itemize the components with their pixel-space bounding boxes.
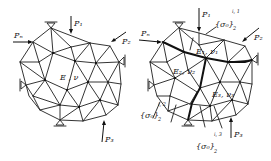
svg-text:{σ₀}: {σ₀}	[215, 20, 234, 29]
pin-support-icon	[119, 55, 125, 67]
pin-support-icon	[45, 22, 57, 28]
load-arrow-icon	[139, 40, 162, 44]
load-arrow-icon	[13, 40, 33, 44]
left-mesh: P₁ P₂ Pₙ P₃ E , ν	[13, 16, 131, 144]
svg-text:2: 2	[213, 148, 217, 154]
stress-label-1: {σ₀} 2 i, 1	[206, 8, 240, 34]
stress-label-2: {σ₀} 2 i, 2	[140, 101, 166, 122]
subdomain-label-3: E₃, ν₃	[211, 90, 234, 99]
load-label-p1: P₁	[201, 10, 211, 19]
fem-figure: P₁ P₂ Pₙ P₃ E , ν	[0, 0, 271, 161]
load-label-pn: Pₙ	[140, 29, 150, 38]
right-mesh: P₁ P₂ Pₙ P₃ E₁, ν₁ E₂, ν₂ E₃, ν₃ {σ₀} 2 …	[139, 8, 263, 154]
load-label-p2: P₂	[253, 33, 263, 42]
load-label-p3: P₃	[104, 135, 114, 144]
svg-text:{σ₀}: {σ₀}	[140, 111, 159, 120]
subdomain-label-2: E₂, ν₂	[172, 67, 195, 76]
load-arrow-icon	[229, 117, 233, 138]
load-arrow-icon	[69, 16, 73, 34]
svg-text:2: 2	[232, 25, 236, 31]
stress-label-3: {σ₀} 2 i, 3	[196, 131, 222, 154]
pin-support-icon	[252, 53, 258, 65]
load-label-p1: P₁	[73, 19, 83, 28]
pin-support-icon	[182, 120, 194, 126]
pin-support-icon	[54, 120, 66, 126]
svg-text:i, 3: i, 3	[214, 131, 222, 137]
svg-text:i, 1: i, 1	[232, 8, 240, 14]
load-label-pn: Pₙ	[13, 31, 23, 40]
material-label: E , ν	[59, 73, 78, 82]
svg-text:2: 2	[157, 116, 161, 122]
svg-text:{σ₀}: {σ₀}	[196, 142, 215, 151]
svg-text:i, 2: i, 2	[158, 101, 166, 107]
load-label-p2: P₂	[121, 37, 131, 46]
load-arrow-icon	[197, 8, 201, 32]
load-label-p3: P₃	[233, 130, 243, 139]
pin-support-icon	[173, 22, 185, 28]
subdomain-label-1: E₁, ν₁	[195, 47, 218, 56]
